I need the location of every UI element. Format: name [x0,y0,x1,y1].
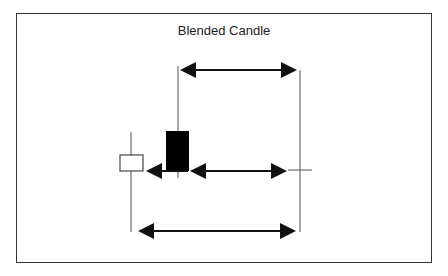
black-candle [166,66,189,178]
diagram-canvas [0,0,448,276]
white-candle [120,132,143,232]
blended-candle-line [288,70,312,232]
